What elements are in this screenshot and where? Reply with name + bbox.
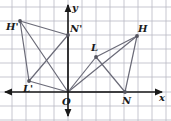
segment-L-H <box>96 36 137 57</box>
point-label-Hp: H' <box>6 22 19 32</box>
point-label-O: O <box>62 97 71 107</box>
point-label-L: L <box>91 43 98 53</box>
x-axis-arrow-left <box>4 89 12 96</box>
y-axis-label: y <box>72 3 78 13</box>
x-axis-label: x <box>159 93 165 103</box>
point-label-Lp: L' <box>23 84 33 94</box>
segment-Hp-Lp <box>20 21 29 81</box>
point-marker-L <box>94 55 98 59</box>
point-label-H: H <box>138 24 147 34</box>
y-axis-arrow-down <box>65 109 72 117</box>
coordinate-plane-figure: HLNH'N'L'O x y <box>0 0 171 121</box>
point-marker-H <box>135 34 139 38</box>
geometry-canvas <box>0 0 171 121</box>
y-axis-arrow-up <box>65 4 72 12</box>
segment-Hp-Np <box>20 21 68 35</box>
point-marker-N <box>123 90 127 94</box>
point-label-N: N <box>122 96 131 106</box>
point-label-Np: N' <box>70 24 82 34</box>
segment-L-N <box>96 57 125 92</box>
